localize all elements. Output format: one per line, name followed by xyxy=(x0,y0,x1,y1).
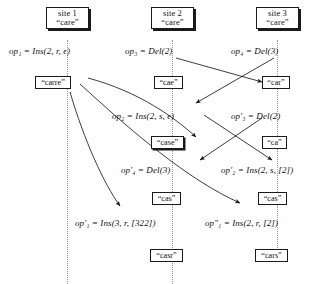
state-box-carre[interactable]: “carre” xyxy=(35,76,71,89)
state-box-cas-site2[interactable]: “cas” xyxy=(152,192,181,205)
state-box-car[interactable]: “car” xyxy=(262,76,290,89)
state-box-cars[interactable]: “cars” xyxy=(255,249,288,262)
site-box-1[interactable]: site 1 “care” xyxy=(46,7,89,29)
operation-label-op3-prime: op′₃ = Del(2) xyxy=(231,111,280,121)
operation-label-op1-prime: op′₁ = Ins(3, r, [322]) xyxy=(75,218,155,228)
operation-label-op2-prime: op′₂ = Ins(2, s, [2]) xyxy=(221,165,293,175)
state-box-casr[interactable]: “casr” xyxy=(150,249,183,262)
operation-label-op2: op₂ = Ins(2, s, ϵ) xyxy=(112,111,174,121)
site-box-3[interactable]: site 3 “care” xyxy=(256,7,299,29)
diagram-canvas: site 1 “care” site 2 “care” site 3 “care… xyxy=(0,0,329,284)
operation-label-op1-double-prime: op″₁ = Ins(2, r, [2]) xyxy=(205,218,278,228)
operation-label-op3: op₃ = Del(2) xyxy=(125,46,172,56)
state-box-ca[interactable]: “ca” xyxy=(262,136,287,149)
operation-label-op4: op₄ = Del(3) xyxy=(231,46,278,56)
site-3-doc: “care” xyxy=(261,18,294,27)
state-box-cas-site3[interactable]: “cas” xyxy=(258,192,287,205)
site-box-2[interactable]: site 2 “care” xyxy=(151,7,194,29)
state-box-case[interactable]: “case” xyxy=(151,136,184,149)
site-1-doc: “care” xyxy=(51,18,84,27)
operation-label-op1: op₁ = Ins(2, r, ϵ) xyxy=(9,46,70,56)
operation-label-op4-prime: op′₄ = Del(3) xyxy=(121,165,170,175)
site-2-doc: “care” xyxy=(156,18,189,27)
state-box-cae[interactable]: “cae” xyxy=(154,76,183,89)
